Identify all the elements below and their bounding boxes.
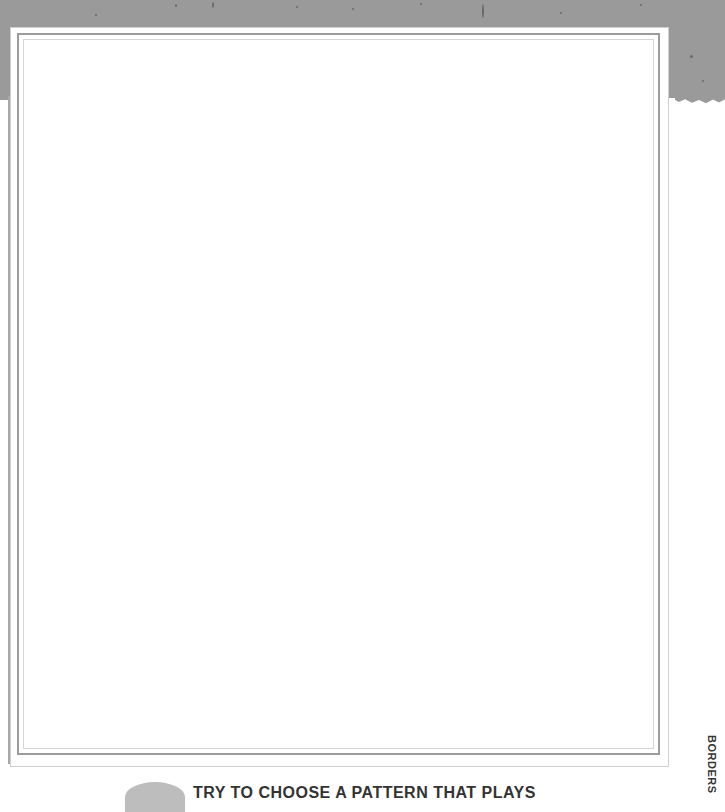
speck [560, 12, 562, 14]
speck [690, 55, 693, 58]
side-section-label: BORDERS [706, 735, 718, 794]
torn-paper-edge [675, 96, 725, 104]
photo-frame-inner [17, 33, 660, 755]
inner-border-line [23, 39, 654, 749]
speck [296, 6, 298, 8]
caption-heading: TRY TO CHOOSE A PATTERN THAT PLAYS [193, 784, 536, 802]
speck [702, 80, 704, 82]
speck [640, 4, 642, 6]
speck [482, 4, 484, 18]
speck [352, 8, 354, 10]
speck [420, 3, 422, 5]
speck [212, 2, 214, 8]
speck [175, 4, 177, 7]
decorative-blob [125, 782, 185, 812]
speck [95, 14, 97, 16]
